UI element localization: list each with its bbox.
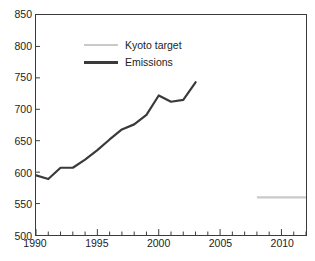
legend-item-emissions: Emissions [84, 55, 182, 69]
x-axis-ticks [36, 229, 306, 235]
y-axis-tick-label: 550 [0, 199, 32, 210]
legend-swatch-kyoto-target [84, 44, 118, 46]
legend-item-kyoto-target: Kyoto target [84, 38, 182, 52]
clipped-title [0, 0, 315, 7]
y-axis-tick-label: 750 [0, 72, 32, 83]
y-axis-ticks [36, 46, 40, 203]
chart-figure: 500550600650700750800850 Kyoto target Em… [0, 0, 315, 261]
x-axis-tick-label: 2005 [209, 238, 232, 249]
x-axis-tick-label: 2010 [271, 238, 294, 249]
series-line-emissions [36, 82, 196, 179]
y-axis-tick-label: 600 [0, 167, 32, 178]
y-axis-tick-label: 700 [0, 104, 32, 115]
x-axis-tick-label: 1990 [23, 238, 46, 249]
y-axis-tick-label: 650 [0, 135, 32, 146]
legend: Kyoto target Emissions [84, 38, 182, 72]
y-axis-tick-label: 850 [0, 9, 32, 20]
legend-label-kyoto-target: Kyoto target [125, 40, 182, 51]
y-axis-tick-label: 800 [0, 40, 32, 51]
x-axis-tick-label: 1995 [85, 238, 108, 249]
plot-area: Kyoto target Emissions [35, 14, 307, 236]
x-axis-tick-label: 2000 [147, 238, 170, 249]
legend-label-emissions: Emissions [125, 57, 173, 68]
legend-swatch-emissions [84, 61, 118, 64]
